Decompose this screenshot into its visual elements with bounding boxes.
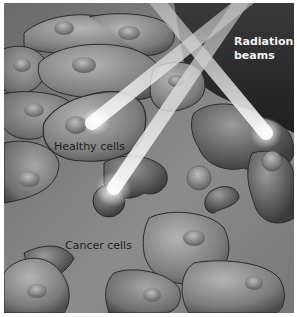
beam-glow	[82, 107, 110, 135]
label-radiation-beams-line1: Radiation	[234, 35, 293, 49]
radiation-therapy-diagram: Radiation beams Healthy cells Cancer cel…	[4, 3, 294, 313]
label-radiation-beams-line2: beams	[234, 49, 293, 63]
label-healthy-cells: Healthy cells	[54, 140, 125, 154]
beam-glow	[96, 171, 132, 207]
label-radiation-beams: Radiation beams	[234, 35, 293, 63]
label-cancer-cells: Cancer cells	[65, 239, 132, 253]
beam-glow	[250, 117, 282, 149]
